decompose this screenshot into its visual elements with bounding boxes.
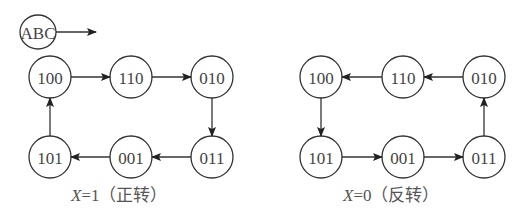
legend-abc-label: ABC [21,24,56,43]
state-node-110: 110 [110,56,152,98]
state-node-010: 010 [463,56,505,98]
state-node-100: 100 [29,56,71,98]
state-node-110: 110 [382,56,424,98]
svg-text:100: 100 [308,69,334,88]
state-node-100: 100 [300,56,342,98]
diagram-reverse: 100 110 010 011 001 101 X=0（反转） [300,56,505,205]
state-node-101: 101 [300,136,342,178]
caption-forward: X=1（正转） [70,186,167,205]
state-node-001: 001 [382,136,424,178]
state-node-010: 010 [191,56,233,98]
svg-text:101: 101 [308,149,334,168]
state-diagram-canvas: ABC 100 110 010 011 001 101 [0,0,529,217]
state-node-101: 101 [29,136,71,178]
svg-text:110: 110 [391,69,416,88]
legend-abc-node: ABC [20,15,56,49]
svg-text:010: 010 [199,69,225,88]
svg-text:011: 011 [200,149,225,168]
svg-text:001: 001 [118,149,144,168]
state-node-011: 011 [463,136,505,178]
diagram-forward: 100 110 010 011 001 101 X=1（正转） [29,56,233,205]
state-node-001: 001 [110,136,152,178]
svg-text:101: 101 [37,149,63,168]
svg-text:100: 100 [37,69,63,88]
svg-text:110: 110 [119,69,144,88]
svg-text:001: 001 [390,149,416,168]
state-node-011: 011 [191,136,233,178]
svg-text:011: 011 [472,149,497,168]
caption-reverse: X=0（反转） [342,186,439,205]
svg-text:010: 010 [471,69,497,88]
